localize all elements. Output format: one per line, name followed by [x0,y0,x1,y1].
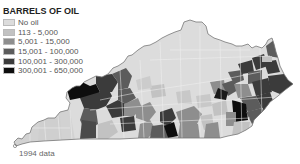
legend-item-5001-15000: 5,001 - 15,000 [3,37,83,47]
legend-label: 15,001 - 100,000 [18,47,79,56]
legend-item-300001-650000: 300,001 - 650,000 [3,66,83,76]
legend-item-15001-100000: 15,001 - 100,000 [3,47,83,57]
legend-item-100001-300000: 100,001 - 300,000 [3,56,83,66]
legend-item-113-5000: 113 - 5,000 [3,28,83,38]
legend-swatch [3,29,15,36]
legend-label: 300,001 - 650,000 [18,66,83,75]
legend-swatch [3,58,15,65]
legend-swatch [3,19,15,26]
legend-label: No oil [18,18,38,27]
legend-label: 113 - 5,000 [18,28,58,37]
legend-swatch [3,38,15,45]
legend-title: BARRELS OF OIL [3,6,83,16]
legend-label: 100,001 - 300,000 [18,57,83,66]
legend-swatch [3,48,15,55]
legend: BARRELS OF OIL No oil 113 - 5,000 5,001 … [3,6,83,76]
data-year-footnote: 1994 data [19,149,55,158]
legend-swatch [3,67,15,74]
legend-label: 5,001 - 15,000 [18,37,70,46]
legend-item-no-oil: No oil [3,18,83,28]
